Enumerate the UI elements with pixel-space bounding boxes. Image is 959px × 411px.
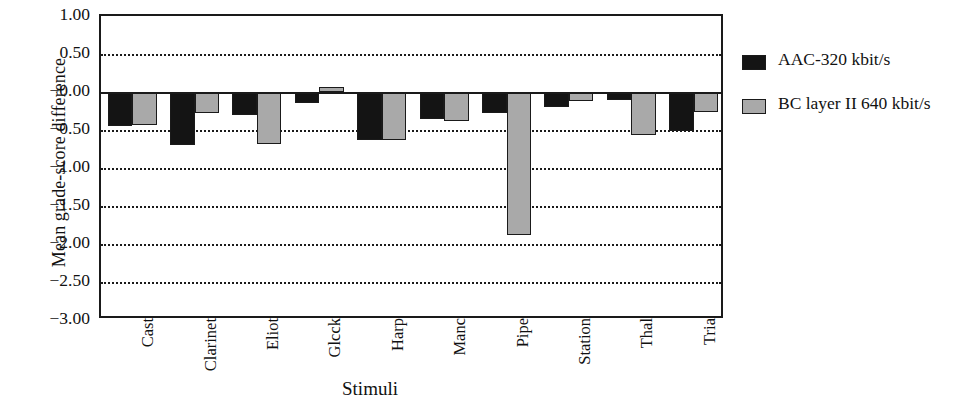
legend-swatch <box>742 99 766 114</box>
bar-group <box>226 16 288 316</box>
x-tick-label: Cast <box>138 318 158 351</box>
bar <box>544 92 569 107</box>
bar <box>357 92 382 140</box>
zero-line <box>101 92 721 94</box>
y-tick-label: −3.00 <box>12 308 90 329</box>
bar <box>257 92 282 144</box>
bar <box>507 92 532 235</box>
x-tick-label: Glcck <box>325 318 345 361</box>
bar <box>232 92 257 115</box>
y-tick-label: −1.00 <box>12 156 90 177</box>
y-tick-label: 0.50 <box>12 42 90 63</box>
bars-container <box>101 16 721 316</box>
bar <box>631 92 656 135</box>
bar-group <box>413 16 475 316</box>
y-tick-label: −0.00 <box>12 80 90 101</box>
x-tick-label: Station <box>575 318 595 369</box>
x-tick-label: Tria <box>700 318 720 349</box>
plot-area <box>99 14 723 318</box>
y-tick-label: −2.00 <box>12 232 90 253</box>
x-tick-label: Thal <box>637 318 657 352</box>
bar <box>694 92 719 112</box>
legend-label: AAC-320 kbit/s <box>778 49 890 70</box>
bar <box>132 92 157 125</box>
legend: AAC-320 kbit/sBC layer II 640 kbit/s <box>742 52 957 140</box>
x-tick-label: Eliot <box>263 318 283 354</box>
y-tick-label: 1.00 <box>12 4 90 25</box>
bar <box>420 92 445 119</box>
y-axis-tick-labels: 1.000.50−0.00−0.50−1.00−1.50−2.00−2.50−3… <box>8 0 90 411</box>
bar <box>382 92 407 140</box>
x-tick-label: Manc <box>450 318 470 360</box>
x-tick-label: Clarinet <box>201 318 221 375</box>
bar-group <box>163 16 225 316</box>
legend-entry: BC layer II 640 kbit/s <box>742 96 957 140</box>
x-axis-tick-labels: CastClarinetEliotGlcckHarpMancPipeStatio… <box>99 318 723 380</box>
bar-group <box>101 16 163 316</box>
legend-swatch <box>742 55 766 70</box>
x-tick-label: Harp <box>388 318 408 355</box>
bar <box>444 92 469 121</box>
legend-label: BC layer II 640 kbit/s <box>778 93 931 114</box>
bar <box>669 92 694 131</box>
bar-group <box>538 16 600 316</box>
bar-group <box>475 16 537 316</box>
y-tick-label: −1.50 <box>12 194 90 215</box>
legend-entry: AAC-320 kbit/s <box>742 52 957 96</box>
x-axis-title: Stimuli <box>300 378 440 400</box>
bar-group <box>663 16 725 316</box>
bar <box>482 92 507 113</box>
bar-group <box>600 16 662 316</box>
y-tick-label: −0.50 <box>12 118 90 139</box>
bar-group <box>351 16 413 316</box>
bar <box>170 92 195 145</box>
x-tick-label: Pipe <box>513 318 533 351</box>
y-tick-label: −2.50 <box>12 270 90 291</box>
bar-group <box>288 16 350 316</box>
bar <box>108 92 133 126</box>
chart-figure: Mean grade-score difference 1.000.50−0.0… <box>0 0 959 411</box>
bar <box>195 92 220 113</box>
